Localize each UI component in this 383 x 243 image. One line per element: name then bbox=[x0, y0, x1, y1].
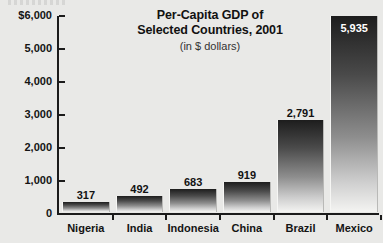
y-axis-tick-label: 3,000 bbox=[24, 108, 52, 120]
x-axis-category-label: Brazil bbox=[274, 222, 328, 234]
bar-value-label: 2,791 bbox=[277, 107, 324, 119]
x-axis-tick bbox=[219, 215, 221, 220]
y-axis-labels: 01,0002,0003,0004,0005,000$6,000 bbox=[0, 16, 52, 214]
x-axis-line bbox=[57, 213, 379, 215]
bar[interactable] bbox=[277, 120, 324, 212]
bar[interactable] bbox=[330, 16, 377, 212]
y-axis-tick-label: 5,000 bbox=[24, 42, 52, 54]
y-axis-tick-label: 2,000 bbox=[24, 141, 52, 153]
chart-figure: Per-Capita GDP of Selected Countries, 20… bbox=[0, 0, 383, 243]
x-axis-tick bbox=[380, 215, 382, 220]
x-axis-tick bbox=[112, 215, 114, 220]
scan-artifact bbox=[8, 0, 68, 5]
x-axis-tick bbox=[273, 215, 275, 220]
y-axis-tick-label: 4,000 bbox=[24, 75, 52, 87]
x-axis-category-label: China bbox=[220, 222, 274, 234]
y-axis-tick bbox=[59, 180, 65, 182]
y-axis-tick bbox=[59, 48, 65, 50]
y-axis-tick bbox=[59, 81, 65, 83]
bar-value-label: 683 bbox=[169, 176, 216, 188]
y-axis-tick bbox=[59, 147, 65, 149]
bar-value-label: 5,935 bbox=[330, 22, 377, 34]
x-axis-category-label: Nigeria bbox=[59, 222, 113, 234]
bar-value-label: 317 bbox=[62, 189, 109, 201]
y-axis-tick-label: $6,000 bbox=[18, 9, 52, 21]
bar[interactable] bbox=[62, 202, 109, 212]
y-axis-tick-label: 0 bbox=[46, 207, 52, 219]
x-axis-tick bbox=[326, 215, 328, 220]
x-axis-category-label: Mexico bbox=[327, 222, 381, 234]
x-axis-category-label: India bbox=[113, 222, 167, 234]
y-axis-tick bbox=[59, 114, 65, 116]
y-axis-tick-label: 1,000 bbox=[24, 174, 52, 186]
x-axis-tick bbox=[165, 215, 167, 220]
bar-value-label: 492 bbox=[116, 183, 163, 195]
y-axis-tick bbox=[59, 15, 65, 17]
plot-area: 317Nigeria492India683Indonesia919China2,… bbox=[57, 16, 379, 214]
bar[interactable] bbox=[116, 196, 163, 212]
bar[interactable] bbox=[169, 189, 216, 212]
bar[interactable] bbox=[223, 182, 270, 212]
bar-value-label: 919 bbox=[223, 169, 270, 181]
x-axis-category-label: Indonesia bbox=[166, 222, 220, 234]
